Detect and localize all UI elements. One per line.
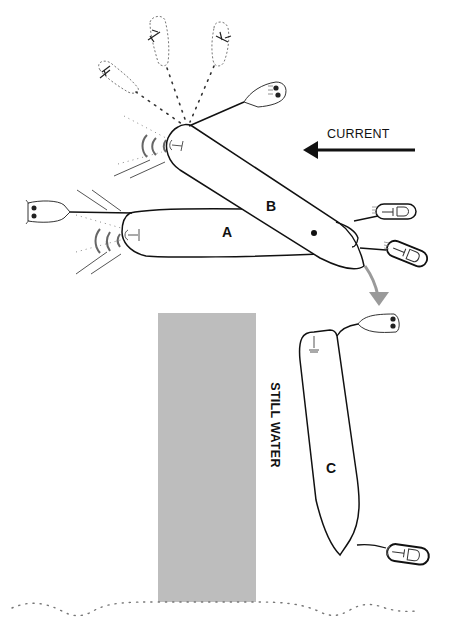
boat-c-hull bbox=[300, 330, 359, 555]
tug-c-bow bbox=[337, 314, 399, 336]
tug-b-bow bbox=[189, 82, 286, 126]
diagram-svg bbox=[0, 0, 452, 632]
tug-b-stern-upper bbox=[354, 204, 416, 221]
drift-arrow bbox=[365, 266, 389, 306]
ghost-tug-right bbox=[212, 22, 229, 66]
ghost-tow-lines bbox=[136, 66, 214, 124]
ghost-tugs bbox=[99, 16, 229, 93]
riverbank-dotted-line bbox=[12, 602, 415, 616]
boat-a-label: A bbox=[222, 224, 232, 240]
still-water-label: STILL WATER bbox=[268, 370, 282, 480]
boat-b-dotted-rays bbox=[118, 116, 166, 164]
ghost-tug-left bbox=[99, 61, 139, 93]
current-arrow bbox=[303, 141, 415, 159]
boat-b-bow-waves bbox=[143, 135, 167, 157]
tug-b-stern-lower bbox=[360, 238, 430, 269]
boat-b-label: B bbox=[266, 198, 276, 214]
boat-b-pivot-dot bbox=[311, 230, 317, 236]
current-label: CURRENT bbox=[327, 127, 390, 141]
boat-c-label: C bbox=[326, 460, 336, 476]
ghost-tug-glyphs bbox=[100, 30, 231, 78]
tug-a-bow bbox=[26, 200, 132, 224]
diagram-canvas: CURRENT A B C STILL WATER bbox=[0, 0, 452, 632]
tug-c-stern bbox=[357, 543, 430, 566]
still-water-area bbox=[158, 313, 256, 602]
